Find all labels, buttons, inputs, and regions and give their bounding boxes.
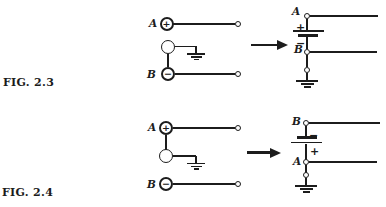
label-b: B xyxy=(292,116,301,127)
wire xyxy=(173,127,236,128)
label-b: B xyxy=(147,179,156,190)
terminal-a-circle: + xyxy=(160,17,174,31)
label-b: B xyxy=(147,69,156,80)
label-a: A xyxy=(148,122,156,133)
figure-canvas: FIG. 2.3 A + B − A + − B FIG. xyxy=(0,0,386,207)
wire xyxy=(309,161,377,162)
wire xyxy=(173,23,235,24)
wire xyxy=(165,135,166,150)
label-a: A xyxy=(149,18,157,29)
figure-2-4-label: FIG. 2.4 xyxy=(2,187,53,198)
minus-sign: − xyxy=(162,179,170,189)
label-a: A xyxy=(292,6,300,17)
wire xyxy=(306,19,307,30)
wire xyxy=(167,54,168,68)
terminal-node xyxy=(235,21,241,27)
label-b: B xyxy=(294,44,303,55)
battery-plus-sign: + xyxy=(310,146,319,157)
terminal-b-circle: − xyxy=(161,67,175,81)
wire xyxy=(175,73,235,74)
terminal-node xyxy=(235,125,241,131)
neutral-circle xyxy=(161,40,175,54)
ground-icon xyxy=(295,178,317,194)
terminal-b-circle: − xyxy=(159,177,173,191)
wire xyxy=(306,55,307,67)
terminal-node xyxy=(235,71,241,77)
ground-icon xyxy=(296,73,318,89)
battery-plate-short xyxy=(297,136,317,139)
wire xyxy=(310,51,377,52)
neutral-circle xyxy=(159,149,173,163)
figure-2-3-label: FIG. 2.3 xyxy=(3,77,54,88)
wire xyxy=(305,126,306,136)
plus-sign: + xyxy=(162,123,170,133)
wire xyxy=(309,122,381,123)
ground-icon xyxy=(187,156,205,171)
minus-sign: − xyxy=(164,69,172,79)
wire xyxy=(306,37,307,49)
label-a: A xyxy=(293,156,301,167)
ground-icon xyxy=(187,46,205,61)
wire xyxy=(173,183,236,184)
wire xyxy=(305,144,306,160)
wire xyxy=(310,15,379,16)
plus-sign: + xyxy=(163,19,171,29)
terminal-node xyxy=(235,181,241,187)
battery-plate-long xyxy=(293,30,324,32)
terminal-a-circle: + xyxy=(159,121,173,135)
